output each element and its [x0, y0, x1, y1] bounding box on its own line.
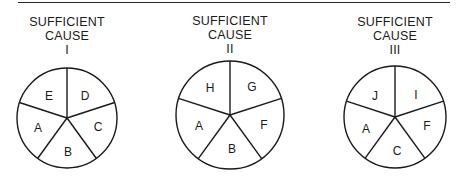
pie-1-label-a: A [34, 121, 42, 135]
pie-1-divider [67, 103, 115, 119]
pie-1-label-e: E [45, 89, 53, 103]
pie-2-label-f: F [260, 118, 267, 132]
pie-2-label-b: B [228, 142, 236, 156]
pie-2-divider [230, 98, 281, 115]
pie-2-label-g: G [247, 80, 256, 94]
pie-2-divider [198, 115, 230, 159]
pie-3-label-c: C [393, 144, 402, 158]
pie-3-label-f: F [423, 119, 430, 133]
pie-2-label-h: H [206, 81, 215, 95]
pie-2-label-a: A [195, 119, 203, 133]
pie-2-divider [179, 98, 230, 115]
pie-3-divider [395, 101, 444, 117]
pie-3-label-a: A [362, 122, 370, 136]
pie-3-label-j: J [372, 89, 378, 103]
pie-1-divider [19, 103, 67, 119]
pie-3-divider [347, 101, 396, 117]
pie-3-label-i: I [414, 88, 417, 102]
pies-canvas: E D C B A H G F B A J I F C A [0, 0, 465, 181]
pie-1-label-d: D [81, 89, 90, 103]
pie-1-label-b: B [64, 145, 72, 159]
pie-1-label-c: C [94, 120, 103, 134]
